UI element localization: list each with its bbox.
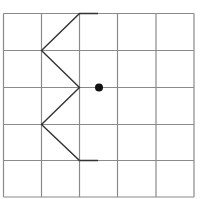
grid-lines (4, 14, 195, 198)
center-dot (95, 84, 103, 92)
grid-diagram (0, 0, 201, 199)
